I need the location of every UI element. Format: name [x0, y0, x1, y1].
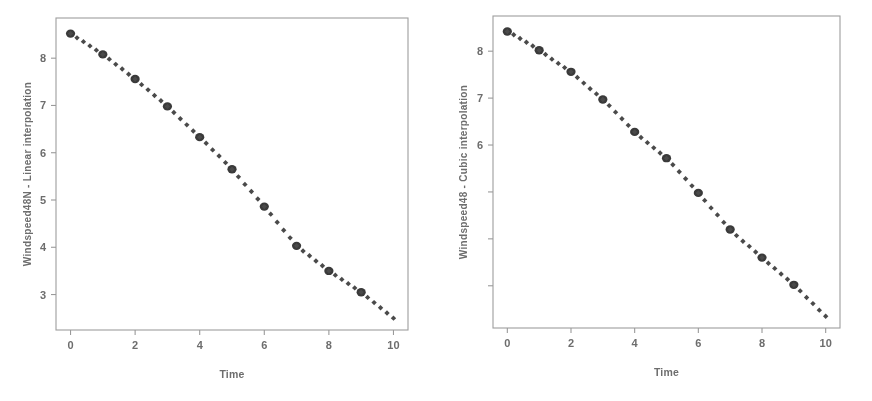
interpolation-marker [107, 56, 112, 61]
interpolation-marker [607, 103, 612, 108]
interpolation-marker [184, 122, 189, 127]
interpolation-marker [307, 253, 312, 258]
x-tick-label: 0 [67, 339, 73, 351]
interpolation-marker [715, 212, 720, 217]
interpolation-marker [152, 93, 157, 98]
interpolation-marker [216, 153, 221, 158]
interpolation-marker [365, 295, 370, 300]
x-axis-title: Time [219, 368, 244, 380]
interpolation-marker [708, 205, 713, 210]
interpolation-marker [113, 62, 118, 67]
x-tick-label: 10 [387, 339, 399, 351]
interpolation-marker [87, 43, 92, 48]
interpolation-marker [626, 123, 631, 128]
interpolation-marker [798, 288, 803, 293]
y-tick-label: 4 [40, 241, 47, 253]
x-tick-label: 8 [759, 337, 765, 349]
interpolation-marker [249, 189, 254, 194]
interpolation-marker [223, 160, 228, 165]
interpolation-marker [657, 150, 662, 155]
interpolation-marker [747, 244, 752, 249]
x-tick-label: 6 [261, 339, 267, 351]
interpolation-marker [817, 307, 822, 312]
interpolation-marker [287, 235, 292, 240]
left-plot-svg: 0246810345678Windspeed48N - Linear inter… [0, 0, 450, 401]
x-tick-label: 8 [326, 339, 332, 351]
interpolation-marker [191, 128, 196, 133]
interpolation-marker [562, 65, 567, 70]
y-tick-label: 7 [477, 92, 483, 104]
right-plot-svg: 0246810678Windspeed48 - Cubic interpolat… [450, 0, 872, 401]
interpolation-marker [785, 277, 790, 282]
interpolation-marker [549, 56, 554, 61]
data-points-interpolated [505, 29, 829, 319]
left-panel: 0246810345678Windspeed48N - Linear inter… [0, 0, 450, 401]
interpolation-marker [670, 162, 675, 167]
interpolation-marker [511, 32, 516, 37]
interpolation-marker [158, 98, 163, 103]
interpolation-marker [378, 305, 383, 310]
interpolation-marker [339, 277, 344, 282]
interpolation-marker [677, 169, 682, 174]
interpolation-marker [255, 196, 260, 201]
interpolation-marker [275, 220, 280, 225]
interpolation-marker [721, 220, 726, 225]
interpolation-marker [683, 176, 688, 181]
x-axis-title: Time [654, 366, 679, 378]
interpolation-marker [575, 75, 580, 80]
interpolation-marker [74, 35, 79, 40]
data-points-interpolated [68, 31, 396, 321]
interpolation-marker [766, 261, 771, 266]
interpolation-marker [753, 249, 758, 254]
interpolation-marker [517, 36, 522, 41]
interpolation-marker [613, 109, 618, 114]
x-tick-label: 0 [504, 337, 510, 349]
x-tick-label: 4 [632, 337, 639, 349]
y-tick-label: 6 [477, 139, 483, 151]
interpolation-marker [619, 116, 624, 121]
x-tick-label: 2 [132, 339, 138, 351]
interpolation-marker [94, 47, 99, 52]
interpolation-marker [772, 266, 777, 271]
interpolation-marker [689, 183, 694, 188]
interpolation-marker [702, 198, 707, 203]
interpolation-marker [594, 91, 599, 96]
interpolation-marker [313, 258, 318, 263]
interpolation-marker [543, 52, 548, 57]
interpolation-marker [203, 141, 208, 146]
y-tick-label: 3 [40, 289, 46, 301]
y-axis-title: Windspeed48N - Linear interpolation [22, 82, 33, 266]
x-tick-label: 2 [568, 337, 574, 349]
y-tick-label: 6 [40, 147, 46, 159]
interpolation-marker [645, 140, 650, 145]
y-tick-label: 8 [477, 45, 483, 57]
interpolation-marker [587, 86, 592, 91]
interpolation-marker [530, 43, 535, 48]
interpolation-marker [268, 211, 273, 216]
interpolation-marker [778, 271, 783, 276]
interpolation-marker [810, 301, 815, 306]
interpolation-marker [740, 239, 745, 244]
interpolation-marker [300, 248, 305, 253]
interpolation-marker [581, 80, 586, 85]
x-tick-label: 4 [197, 339, 204, 351]
interpolation-marker [333, 272, 338, 277]
interpolation-marker [651, 145, 656, 150]
interpolation-marker [281, 228, 286, 233]
interpolation-marker [371, 300, 376, 305]
y-axis-title: Windspeed48 - Cubic interpolation [458, 85, 469, 259]
interpolation-marker [210, 147, 215, 152]
interpolation-marker [139, 82, 144, 87]
y-tick-label: 7 [40, 99, 46, 111]
interpolation-marker [171, 110, 176, 115]
interpolation-marker [145, 87, 150, 92]
interpolation-marker [384, 310, 389, 315]
plot-frame [56, 18, 408, 330]
y-tick-label: 5 [40, 194, 46, 206]
interpolation-marker [352, 285, 357, 290]
x-tick-label: 10 [820, 337, 832, 349]
right-panel: 0246810678Windspeed48 - Cubic interpolat… [450, 0, 872, 401]
interpolation-marker [320, 263, 325, 268]
interpolation-marker [346, 281, 351, 286]
interpolation-marker [81, 39, 86, 44]
